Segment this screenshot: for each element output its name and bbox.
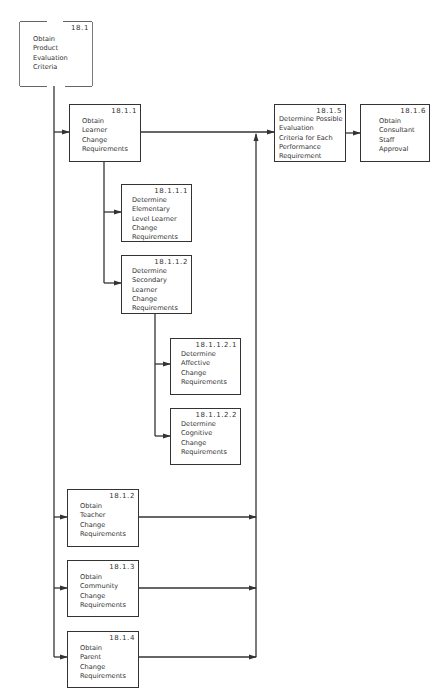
node-label: Obtain Parent Change Requirements	[80, 644, 126, 681]
node-label: Obtain Consultant Staff Approval	[379, 117, 415, 154]
node-label: Determine Possible Evaluation Criteria f…	[279, 115, 343, 161]
node-label: Obtain Teacher Change Requirements	[80, 502, 126, 539]
node-number: 18.1.5	[316, 107, 342, 115]
node-18-1-3: 18.1.3 Obtain Community Change Requireme…	[67, 560, 139, 617]
node-18-1: 18.1 Obtain Product Evaluation Criteria	[20, 22, 92, 86]
node-number: 18.1.1.2.2	[195, 411, 237, 419]
flow-diagram: 18.1 Obtain Product Evaluation Criteria …	[0, 0, 447, 698]
node-label: Obtain Community Change Requirements	[80, 573, 126, 610]
node-number: 18.1.6	[400, 107, 426, 115]
node-number: 18.1.3	[109, 563, 135, 571]
node-18-1-2: 18.1.2 Obtain Teacher Change Requirement…	[67, 489, 139, 547]
node-label: Determine Cognitive Change Requirements	[181, 420, 227, 457]
node-label: Obtain Learner Change Requirements	[82, 117, 128, 154]
node-18-1-1-2-1: 18.1.1.2.1 Determine Affective Change Re…	[170, 338, 241, 395]
node-number: 18.1.2	[109, 492, 135, 500]
node-18-1-5: 18.1.5 Determine Possible Evaluation Cri…	[274, 104, 346, 162]
node-number: 18.1	[71, 24, 89, 32]
node-18-1-4: 18.1.4 Obtain Parent Change Requirements	[67, 631, 139, 688]
node-number: 18.1.4	[109, 634, 135, 642]
node-18-1-1-2: 18.1.1.2 Determine Secondary Learner Cha…	[121, 255, 192, 314]
node-number: 18.1.1	[111, 107, 137, 115]
node-number: 18.1.1.2.1	[195, 341, 237, 349]
node-number: 18.1.1.1	[154, 187, 188, 195]
node-label: Determine Elementary Level Learner Chang…	[132, 196, 178, 242]
node-18-1-1: 18.1.1 Obtain Learner Change Requirement…	[69, 104, 141, 162]
node-18-1-1-1: 18.1.1.1 Determine Elementary Level Lear…	[121, 184, 192, 242]
node-label: Determine Affective Change Requirements	[181, 350, 227, 387]
node-number: 18.1.1.2	[154, 258, 188, 266]
node-label: Obtain Product Evaluation Criteria	[33, 35, 68, 72]
node-18-1-1-2-2: 18.1.1.2.2 Determine Cognitive Change Re…	[170, 408, 241, 465]
node-18-1-6: 18.1.6 Obtain Consultant Staff Approval	[360, 104, 430, 162]
node-label: Determine Secondary Learner Change Requi…	[132, 267, 178, 313]
